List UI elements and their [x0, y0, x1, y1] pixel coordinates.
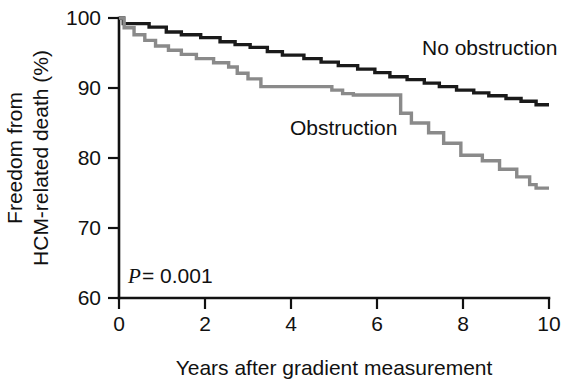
x-tick-label: 10: [537, 312, 560, 335]
chart-figure: 60708090100 0246810 Freedom from HCM-rel…: [0, 0, 562, 382]
y-tick-label: 90: [78, 76, 101, 99]
x-tick-label: 4: [285, 312, 297, 335]
survival-curve-chart: 60708090100 0246810 Freedom from HCM-rel…: [0, 0, 562, 382]
series-label-no-obstruction: No obstruction: [422, 36, 557, 59]
x-tick-label: 2: [199, 312, 211, 335]
y-axis-title-line1: Freedom from: [3, 92, 26, 224]
x-tick-label: 8: [457, 312, 469, 335]
p-value-text: = 0.001: [142, 264, 213, 287]
y-axis-title: Freedom from HCM-related death (%): [3, 50, 52, 266]
p-value-annotation: P = 0.001: [127, 264, 213, 288]
x-tick-group: 0246810: [113, 298, 561, 335]
x-tick-label: 6: [371, 312, 383, 335]
y-tick-group: 60708090100: [66, 6, 119, 309]
x-tick-label: 0: [113, 312, 125, 335]
series-label-obstruction: Obstruction: [290, 116, 397, 139]
y-axis-title-line2: HCM-related death (%): [29, 50, 52, 266]
x-axis-title: Years after gradient measurement: [176, 356, 493, 379]
y-tick-label: 70: [78, 216, 101, 239]
p-value-symbol: P: [127, 264, 141, 288]
y-tick-label: 80: [78, 146, 101, 169]
y-tick-label: 60: [78, 286, 101, 309]
y-tick-label: 100: [66, 6, 101, 29]
